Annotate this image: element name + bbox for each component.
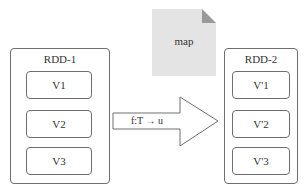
- rdd-2-partition: V'1: [232, 71, 290, 99]
- rdd-1-partition: V1: [26, 71, 92, 99]
- transform-arrow: f:T → u: [112, 96, 222, 148]
- document-label: map: [152, 35, 216, 47]
- rdd-2-partition: V'3: [232, 147, 290, 175]
- rdd-1-partition: V2: [26, 110, 92, 138]
- rdd-1-partition: V3: [26, 147, 92, 175]
- rdd-2-partition: V'2: [232, 110, 290, 138]
- arrow-label: f:T → u: [115, 114, 179, 128]
- map-document: map: [152, 9, 216, 76]
- rdd-2-title: RDD-2: [225, 53, 297, 65]
- rdd-1-title: RDD-1: [11, 53, 109, 65]
